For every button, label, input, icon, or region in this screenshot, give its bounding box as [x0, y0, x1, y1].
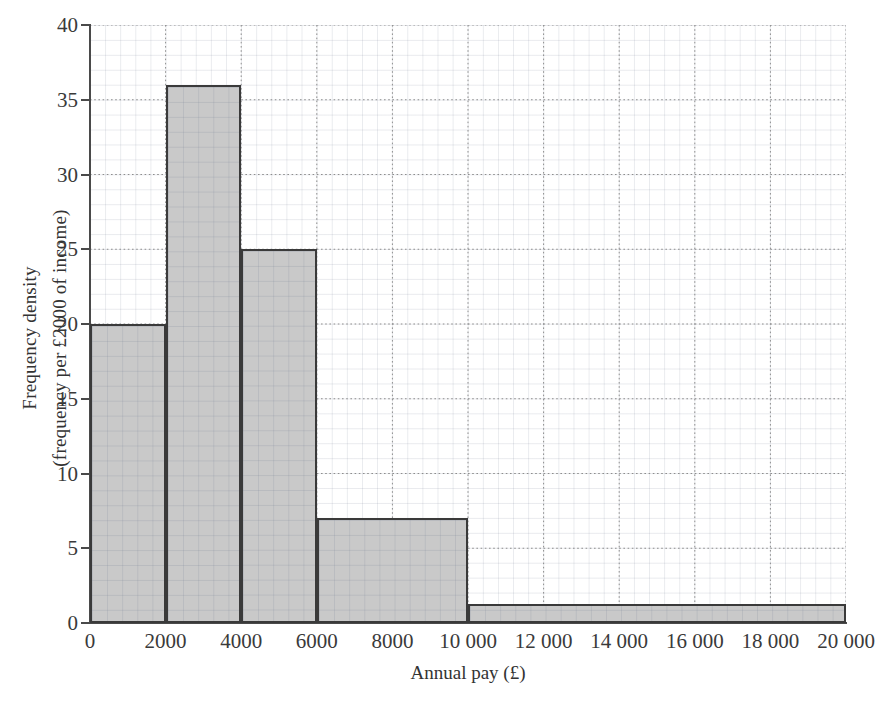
x-tick-label: 16 000 — [666, 629, 724, 654]
y-tick-label: 20 — [57, 312, 78, 337]
y-axis-label-line1: Frequency density — [15, 103, 45, 573]
x-axis-label: Annual pay (£) — [90, 662, 846, 684]
histogram-figure: Frequency density (frequency per £2000 o… — [0, 0, 880, 707]
x-tick-label: 14 000 — [590, 629, 648, 654]
histogram-bar — [166, 85, 242, 623]
y-tick-label: 5 — [68, 536, 79, 561]
histogram-bar — [241, 249, 317, 623]
x-tick-label: 20 000 — [817, 629, 875, 654]
x-tick-label: 0 — [85, 629, 96, 654]
y-tick-mark — [81, 547, 90, 549]
y-tick-mark — [81, 473, 90, 475]
y-tick-label: 30 — [57, 162, 78, 187]
y-tick-label: 25 — [57, 237, 78, 262]
bar-grid-overlay — [470, 606, 844, 621]
x-tick-label: 2000 — [145, 629, 187, 654]
y-tick-mark — [81, 323, 90, 325]
x-tick-label: 6000 — [296, 629, 338, 654]
bar-grid-overlay — [92, 326, 164, 621]
y-tick-mark — [81, 174, 90, 176]
histogram-bar — [317, 518, 468, 623]
bar-grid-overlay — [319, 520, 466, 621]
plot-area: 0510152025303540 0200040006000800010 000… — [90, 25, 846, 623]
histogram-bar — [468, 604, 846, 623]
bar-grid-overlay — [243, 251, 315, 621]
y-tick-label: 0 — [68, 611, 79, 636]
y-tick-mark — [81, 398, 90, 400]
x-tick-label: 10 000 — [439, 629, 497, 654]
y-tick-mark — [81, 248, 90, 250]
y-tick-mark — [81, 24, 90, 26]
x-tick-label: 12 000 — [515, 629, 573, 654]
x-tick-label: 4000 — [220, 629, 262, 654]
y-tick-label: 15 — [57, 386, 78, 411]
y-tick-label: 40 — [57, 13, 78, 38]
y-tick-label: 10 — [57, 461, 78, 486]
x-tick-label: 18 000 — [742, 629, 800, 654]
y-tick-mark — [81, 99, 90, 101]
x-tick-label: 8000 — [371, 629, 413, 654]
bar-grid-overlay — [168, 87, 240, 621]
y-tick-label: 35 — [57, 87, 78, 112]
histogram-bar — [90, 324, 166, 623]
y-tick-mark — [81, 622, 90, 624]
